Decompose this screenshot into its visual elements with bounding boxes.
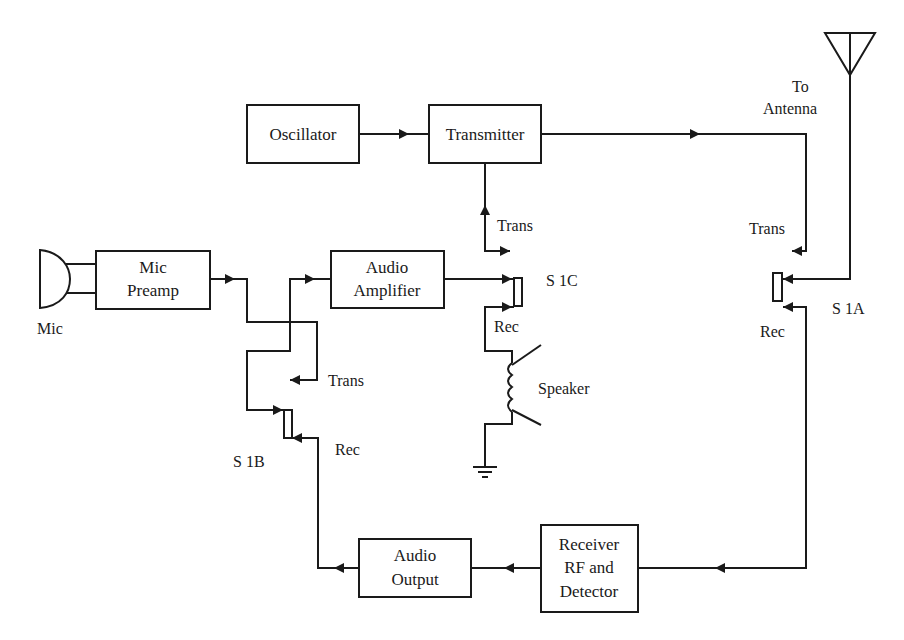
wire-s1c-to-speaker [485, 307, 514, 363]
oscillator-label: Oscillator [269, 125, 336, 144]
arrow-icon [480, 205, 490, 215]
receiver-label-line3: Detector [560, 582, 619, 601]
arrow-icon [290, 375, 300, 385]
audio-amplifier-label-line1: Audio [366, 258, 409, 277]
mic-preamp-label-line1: Mic [139, 258, 167, 277]
transmitter-label: Transmitter [446, 125, 525, 144]
transmitter-block: Transmitter [429, 105, 541, 163]
microphone-icon [40, 250, 70, 308]
to-antenna-label-line2: Antenna [763, 100, 817, 117]
s1c-rec-label: Rec [494, 318, 519, 335]
arrow-icon [783, 302, 793, 312]
arrow-icon [504, 563, 514, 573]
audio-output-label-line2: Output [391, 570, 439, 589]
arrow-icon [500, 246, 510, 256]
arrow-icon [399, 129, 409, 139]
switch-s1b-contact [284, 410, 292, 438]
wire-s1c-to-tx [485, 163, 510, 251]
arrow-icon [502, 274, 512, 284]
transceiver-diagram: Oscillator Transmitter Mic Preamp Audio … [0, 0, 904, 640]
audio-amplifier-label-line2: Amplifier [353, 281, 420, 300]
arrow-icon [292, 433, 302, 443]
oscillator-block: Oscillator [247, 105, 359, 163]
mic-preamp-block: Mic Preamp [96, 251, 210, 309]
wire-s1a-to-receiver [638, 307, 806, 568]
arrow-icon [305, 274, 315, 284]
s1b-rec-label: Rec [335, 441, 360, 458]
to-antenna-label-line1: To [792, 78, 809, 95]
switch-s1a-contact [773, 273, 782, 301]
arrow-icon [225, 274, 235, 284]
receiver-label-line2: RF and [564, 558, 614, 577]
switch-s1c-contact [514, 278, 522, 306]
arrow-icon [783, 274, 793, 284]
receiver-label-line1: Receiver [559, 535, 620, 554]
arrow-icon [715, 563, 725, 573]
ground-icon [473, 467, 497, 477]
s1b-trans-label: Trans [328, 372, 364, 389]
s1a-trans-label: Trans [749, 220, 785, 237]
s1a-rec-label: Rec [760, 323, 785, 340]
s1c-trans-label: Trans [497, 217, 533, 234]
speaker-label: Speaker [538, 380, 590, 398]
audio-output-label-line1: Audio [394, 546, 437, 565]
arrow-icon [502, 302, 512, 312]
arrow-icon [690, 129, 700, 139]
wire-preamp-to-s1b [210, 279, 317, 380]
s1c-label: S 1C [546, 272, 578, 289]
mic-label: Mic [37, 320, 63, 337]
s1b-label: S 1B [233, 453, 265, 470]
wire-speaker-to-ground [485, 412, 512, 467]
s1a-label: S 1A [832, 300, 865, 317]
antenna-icon [825, 33, 875, 75]
mic-preamp-label-line2: Preamp [127, 281, 179, 300]
audio-output-block: Audio Output [359, 539, 471, 597]
wire-s1b-to-audio-amp [247, 279, 331, 410]
arrow-icon [792, 246, 802, 256]
audio-amplifier-block: Audio Amplifier [331, 251, 444, 308]
receiver-block: Receiver RF and Detector [541, 525, 638, 612]
arrow-icon [334, 563, 344, 573]
arrow-icon [273, 405, 283, 415]
